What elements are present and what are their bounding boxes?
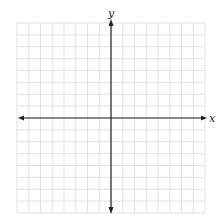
axes xyxy=(18,19,207,214)
y-axis-label: y xyxy=(107,7,115,20)
x-axis-left-arrow-icon xyxy=(18,116,24,121)
y-axis-top-arrow-icon xyxy=(109,19,114,26)
x-axis-label: x xyxy=(209,112,216,125)
x-axis-right-arrow-icon xyxy=(201,116,207,121)
coordinate-plane: x y xyxy=(0,0,219,223)
